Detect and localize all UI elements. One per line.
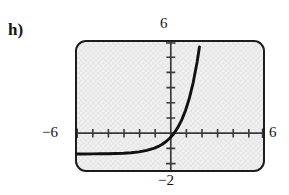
graph-figure: h)	[0, 0, 289, 195]
x-axis-max-label: 6	[269, 124, 277, 140]
y-axis-min-label: −2	[158, 172, 174, 188]
function-curve	[77, 47, 199, 154]
x-axis-min-label: −6	[42, 124, 58, 140]
calculator-screen-frame	[75, 40, 265, 172]
part-label: h)	[8, 20, 23, 40]
y-axis-max-label: 6	[160, 15, 168, 31]
plot-area	[77, 42, 263, 170]
